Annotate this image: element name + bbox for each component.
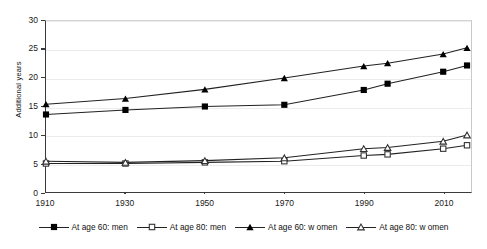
series-line: [46, 65, 467, 114]
x-axis-tick-label: 1950: [185, 199, 225, 208]
data-point-marker: [464, 62, 470, 68]
data-point-marker: [464, 143, 469, 148]
data-point-marker: [361, 87, 367, 93]
data-point-marker: [358, 224, 365, 230]
legend-item[interactable]: At age 60: men: [39, 222, 128, 232]
series-3: [43, 132, 471, 165]
legend-item-label: At age 60: w omen: [268, 223, 337, 231]
legend-item[interactable]: At age 80: w omen: [346, 222, 448, 232]
data-point-marker: [43, 111, 49, 117]
series-line: [46, 48, 467, 104]
legend-item[interactable]: At age 80: men: [137, 222, 226, 232]
y-axis-tick-label: 30: [4, 16, 38, 25]
legend-item-label: At age 80: men: [170, 223, 226, 231]
data-point-marker: [246, 224, 253, 230]
series-line: [46, 145, 467, 163]
data-point-marker: [122, 107, 128, 113]
data-point-marker: [202, 103, 208, 109]
data-point-marker: [385, 81, 391, 87]
x-axis-tick-label: 1990: [344, 199, 384, 208]
data-point-marker: [50, 224, 56, 230]
x-axis-tick-label: 1910: [25, 199, 65, 208]
legend-item[interactable]: At age 60: w omen: [235, 222, 337, 232]
y-axis-tick-label: 10: [4, 131, 38, 140]
series-2: [42, 45, 470, 108]
x-axis-tick-label: 2010: [424, 199, 464, 208]
series-layer: [46, 21, 471, 192]
data-point-marker: [440, 69, 446, 75]
legend-marker-icon: [346, 222, 376, 232]
x-axis-tick-label: 1930: [105, 199, 145, 208]
y-axis-tick-label: 5: [4, 160, 38, 169]
data-point-marker: [149, 224, 154, 229]
data-point-marker: [441, 146, 446, 151]
data-point-marker: [463, 45, 470, 51]
line-chart: Additional years 051015202530 1910193019…: [0, 0, 487, 249]
y-axis-tick-label: 15: [4, 102, 38, 111]
series-0: [43, 62, 470, 117]
data-point-marker: [361, 153, 366, 158]
legend-item-label: At age 60: men: [72, 223, 128, 231]
data-point-marker: [281, 102, 287, 108]
data-point-marker: [385, 152, 390, 157]
y-axis-tick-label: 20: [4, 73, 38, 82]
legend-item-label: At age 80: w omen: [379, 223, 448, 231]
legend-marker-icon: [39, 222, 69, 232]
chart-legend: At age 60: menAt age 80: menAt age 60: w…: [0, 222, 487, 232]
legend-marker-icon: [235, 222, 265, 232]
series-line: [46, 135, 467, 162]
y-axis-tick-label: 0: [4, 189, 38, 198]
legend-marker-icon: [137, 222, 167, 232]
plot-area: [45, 20, 472, 193]
y-axis-tick-label: 25: [4, 44, 38, 53]
data-point-marker: [464, 132, 471, 138]
x-axis-tick-label: 1970: [264, 199, 304, 208]
